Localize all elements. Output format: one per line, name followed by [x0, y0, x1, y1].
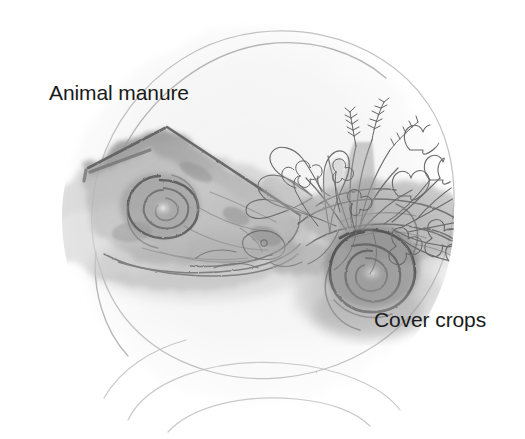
- label-animal-manure: Animal manure: [49, 82, 189, 103]
- illustration-canvas: Animal manure Cover crops: [0, 0, 525, 439]
- paper-grain-overlay: [0, 0, 525, 439]
- pencil-illustration: [0, 0, 525, 439]
- label-cover-crops: Cover crops: [374, 309, 486, 330]
